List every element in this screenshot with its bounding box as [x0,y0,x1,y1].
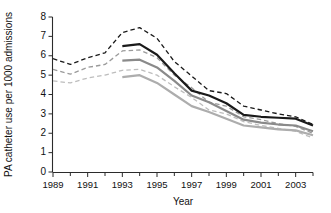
x-tick-label: 1993 [112,179,133,190]
y-tick-label: 7 [40,30,46,41]
axes [49,17,314,177]
y-tick-label: 4 [40,88,46,99]
x-tick-label: 1991 [77,179,98,190]
series-fitted-black-solid [122,44,313,125]
y-tick-label: 0 [40,166,46,177]
y-tick-label: 2 [40,127,46,138]
x-tick-label: 2003 [285,179,306,190]
x-tick-label: 1999 [216,179,237,190]
x-tick-label: 1995 [146,179,167,190]
series-lines [53,28,313,138]
x-tick-label: 2001 [250,179,271,190]
y-axis-title: PA catheter use per 1000 admissions [3,12,14,177]
series-fitted-lightgray-solid [122,75,313,135]
series-observed-black-dashed-upper [53,28,313,125]
x-tick-label: 1997 [181,179,202,190]
chart-container: 0123456781989199119931995199719992001200… [0,0,331,213]
series-observed-lightgray-dashed-lower [53,69,313,138]
y-tick-label: 8 [40,11,46,22]
y-tick-label: 5 [40,69,46,80]
line-chart: 0123456781989199119931995199719992001200… [0,0,331,213]
y-tick-label: 3 [40,108,46,119]
axis-labels: 0123456781989199119931995199719992001200… [3,11,306,207]
y-tick-label: 1 [40,146,46,157]
y-tick-label: 6 [40,49,46,60]
series-fitted-gray-solid [122,60,313,132]
x-tick-label: 1989 [42,179,63,190]
x-axis-title: Year [173,196,194,207]
